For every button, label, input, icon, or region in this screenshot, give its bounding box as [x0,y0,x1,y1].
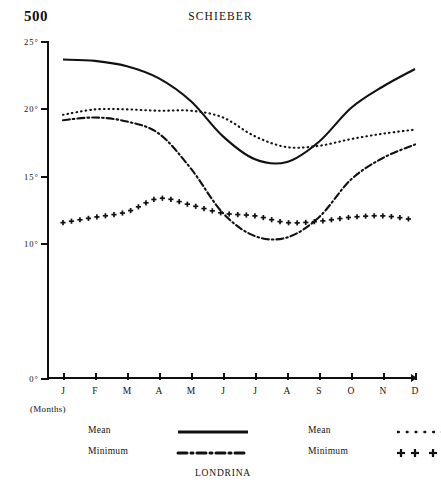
legend-label-kiambu-minimum: Minimum [308,446,348,456]
plus-marker-icon [210,208,215,213]
plus-marker-icon [185,202,190,207]
plus-marker-icon [136,204,141,209]
legend-sample-dashdot-line [174,445,252,461]
plus-marker-icon [363,214,368,219]
x-tick-label: M [187,386,195,396]
chart-page: 500 SCHIEBER 25°20°15°10°0° JFMAMJJASOND… [0,0,441,489]
plus-marker-icon [151,197,156,202]
plus-marker-icon [77,217,82,222]
plus-marker-icon [235,212,240,217]
plus-marker-icon [244,212,249,217]
plus-marker-icon [143,200,148,205]
plus-marker-icon [303,220,308,225]
x-tick-label: M [123,386,131,396]
plus-marker-icon [94,214,99,219]
x-tick-label: O [348,386,355,396]
x-tick-label: F [92,386,97,396]
y-tick-label: 15° [24,172,39,182]
legend-label-kiambu-mean: Mean [308,425,331,435]
legend-station-londrina: LONDRINA [195,468,251,478]
plus-marker-icon [337,216,342,221]
x-tick-label: A [284,386,291,396]
chart-curves [47,42,416,379]
plus-marker-icon [277,219,282,224]
plus-marker-icon [329,217,334,222]
y-tick-label: 0° [29,374,39,384]
legend-sample-plus-markers [394,445,441,461]
plus-marker-icon [69,219,74,224]
chart-title: SCHIEBER [0,10,441,22]
x-tick-label: N [380,386,387,396]
plus-marker-icon [201,206,206,211]
plus-marker-icon [60,220,65,225]
plus-marker-icon [168,197,173,202]
series-londrina-mean [63,60,415,164]
x-tick-label: S [316,386,321,396]
plus-marker-icon [193,204,198,209]
series-kiambu-minimum [60,196,411,226]
plus-marker-icon [397,215,402,220]
legend-label-londrina-minimum: Minimum [88,446,128,456]
x-tick-label: J [253,386,257,396]
plus-marker-icon [252,213,257,218]
plus-marker-icon [286,220,291,225]
series-londrina-minimum [63,117,415,239]
legend-label-londrina-mean: Mean [88,425,111,435]
plus-marker-icon [261,215,266,220]
legend-sample-solid-line [174,424,252,440]
x-tick-label: J [221,386,225,396]
plus-marker-icon [120,210,125,215]
plus-marker-icon [320,218,325,223]
plus-marker-icon [227,211,232,216]
plus-marker-icon [160,196,165,201]
legend-sample-dotted-line [394,424,441,440]
x-tick-label: J [61,386,65,396]
chart-legend: Mean Minimum LONDRINA Mean Min [0,424,441,489]
plus-marker-icon [354,214,359,219]
plus-marker-icon [406,216,411,221]
x-tick-label: A [156,386,163,396]
plus-marker-icon [111,212,116,217]
plus-marker-icon [218,210,223,215]
plus-marker-icon [177,199,182,204]
y-tick-label: 10° [24,239,39,249]
plus-marker-icon [128,208,133,213]
plus-marker-icon [389,214,394,219]
y-tick-label: 20° [24,104,39,114]
plot-area: 25°20°15°10°0° JFMAMJJASOND [47,42,416,379]
series-kiambu-mean [63,109,415,148]
x-axis-caption: (Months) [30,404,66,414]
plus-marker-icon [269,217,274,222]
plus-marker-icon [346,215,351,220]
plus-marker-icon [380,213,385,218]
plus-marker-icon [372,213,377,218]
plus-marker-icon [103,213,108,218]
x-tick-label: D [412,386,419,396]
y-tick-label: 25° [24,37,39,47]
plus-marker-icon [86,216,91,221]
plus-marker-icon [295,220,300,225]
